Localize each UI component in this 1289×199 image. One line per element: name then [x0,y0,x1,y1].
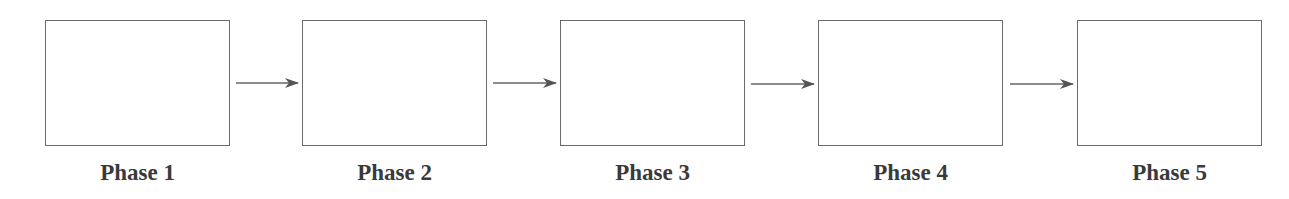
connector-arrows [0,0,1289,199]
